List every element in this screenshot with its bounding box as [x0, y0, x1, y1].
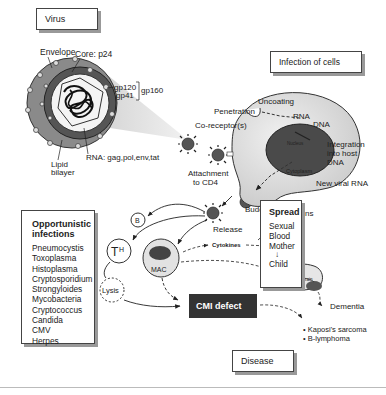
oi-title-1: Opportunistic: [32, 219, 94, 229]
oi-item: Candida: [32, 315, 94, 325]
release-label: Release: [213, 225, 243, 234]
oi-item: CMV: [32, 325, 94, 335]
oi-item: Herpes: [32, 336, 94, 346]
oi-item: Histoplasma: [32, 264, 94, 274]
spread-title: Spread: [269, 207, 301, 217]
opportunistic-infections-box: Opportunistic infections Pneumocystis To…: [21, 210, 95, 344]
th-label: T: [111, 245, 119, 259]
cmi-defect-box: CMI defect: [189, 294, 257, 318]
oi-item: Cryptococcus: [32, 305, 94, 315]
oi-item: Pneumocystis: [32, 243, 94, 253]
attachment-label-2: to CD4: [193, 178, 218, 187]
cytokines-label: Cytokines: [212, 242, 241, 248]
cytoplasm-label: Cytoplasm: [286, 168, 312, 174]
oi-title-2: infections: [32, 229, 94, 239]
integration-label-3: DNA: [327, 158, 345, 167]
b-cell-label: B: [135, 217, 140, 224]
brain-label: Brain: [302, 277, 313, 282]
b-lymphoma-label: • B-lymphoma: [303, 334, 351, 343]
dementia-label: Dementia: [330, 302, 365, 311]
down-arrow-icon: ↓: [269, 251, 301, 259]
spread-item: Sexual: [269, 221, 301, 231]
rna-genes-label: RNA: gag,pol,env,tat: [86, 153, 160, 162]
nucleus-label: Nucleus: [287, 141, 304, 146]
kaposi-label: • Kaposi's sarcoma: [303, 325, 367, 334]
bottom-divider: [0, 387, 386, 388]
envelope-label: Envelope: [40, 47, 76, 57]
integration-label-2: into host: [327, 149, 358, 158]
uncoating-label: Uncoating: [258, 97, 294, 106]
attachment-label-1: Attachment: [188, 169, 229, 178]
section-label-infection: Infection of cells: [270, 51, 362, 73]
rna-label: RNA: [293, 112, 311, 121]
spread-box: Spread Sexual Blood Mother ↓ Child: [260, 200, 302, 288]
virus-particle: [26, 57, 118, 149]
spread-item-child: Child: [269, 259, 301, 269]
gp41-label: gp41: [116, 91, 134, 100]
co-receptor-label: Co-receptor(s): [195, 121, 247, 130]
oi-item: Toxoplasma: [32, 253, 94, 263]
oi-item: Mycobacteria: [32, 294, 94, 304]
new-viral-rna-label: New viral RNA: [316, 179, 369, 188]
spread-item: Blood: [269, 231, 301, 241]
th-sub-label: H: [119, 246, 124, 253]
spread-item: Mother: [269, 241, 301, 251]
oi-item: Strongyloides: [32, 284, 94, 294]
lipid-label-2: bilayer: [51, 168, 75, 177]
penetration-label: Penetration: [214, 107, 255, 116]
oi-item: Cryptosporidium: [32, 274, 94, 284]
integration-label-1: Integration: [327, 140, 365, 149]
mac-label: MAC: [151, 266, 167, 273]
gp160-label: gp160: [141, 86, 164, 95]
section-label-virus: Virus: [36, 8, 98, 30]
section-label-disease: Disease: [232, 350, 294, 372]
dna-label: DNA: [313, 120, 331, 129]
lysis-label: Lysis: [102, 286, 119, 295]
core-label: Core: p24: [75, 49, 113, 59]
